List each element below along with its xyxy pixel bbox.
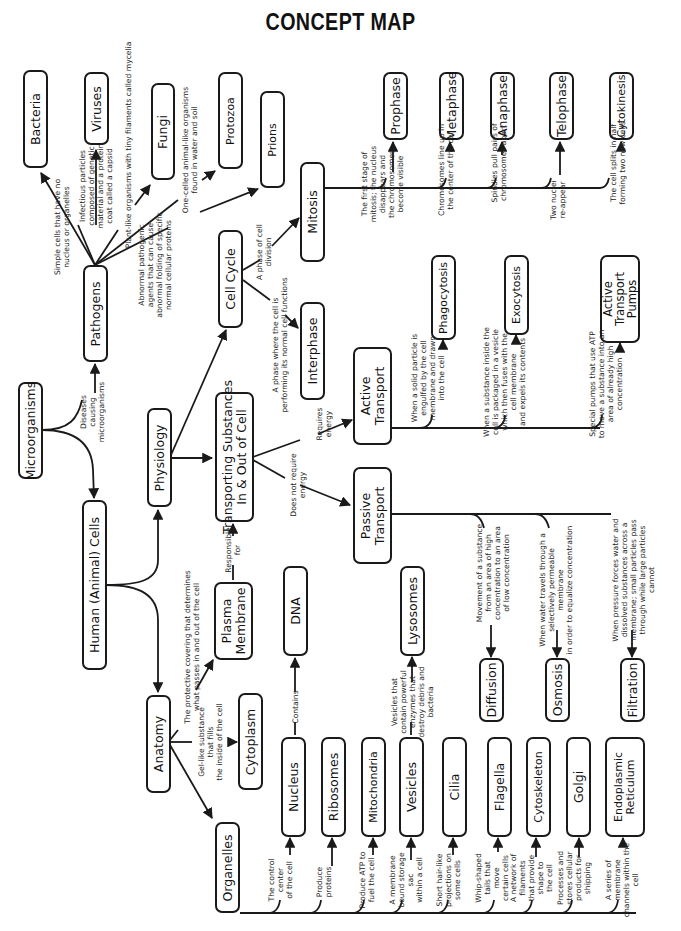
note-golgi: Processes and stores cellular products f… xyxy=(556,851,592,905)
node-label: Anatomy xyxy=(152,716,166,772)
node-label: Interphase xyxy=(306,317,320,384)
node-pathogens[interactable]: Pathogens xyxy=(83,265,108,362)
node-bacteria[interactable]: Bacteria xyxy=(23,70,48,168)
note-diffusion: Movement of a substance from an area of … xyxy=(475,524,511,622)
node-passive-transport[interactable]: Passive Transport xyxy=(353,467,392,564)
note-exocytosis: When a substance inside the cell is pack… xyxy=(482,327,527,437)
note-anaphase: Spindles pull pairs of chromosomes apart xyxy=(490,123,508,202)
node-human-cells[interactable]: Human (Animal) Cells xyxy=(82,500,107,670)
note-interphase: A phase where the cell is performing its… xyxy=(271,277,289,412)
node-label: Physiology xyxy=(153,424,167,491)
node-label: Passive Transport xyxy=(359,486,387,545)
note-plasma-membrane: The protective covering that determines … xyxy=(183,570,201,724)
node-label: Human (Animal) Cells xyxy=(88,517,102,653)
node-label: Telophase xyxy=(555,75,569,137)
note-diseases: Diseases causing microorganisms xyxy=(79,382,106,443)
node-label: Active Transport Pumps xyxy=(602,272,638,326)
note-osmosis: When water travels through a selectively… xyxy=(538,526,574,655)
node-prophase[interactable]: Prophase xyxy=(383,72,408,140)
node-mitochondria[interactable]: Mitochondria xyxy=(361,737,386,837)
node-cilia[interactable]: Cilia xyxy=(442,737,467,837)
node-label: Microorganisms xyxy=(24,381,38,479)
node-organelles[interactable]: Organelles xyxy=(215,822,240,913)
note-prophase: The first stage of mitosis; the nucleus … xyxy=(360,146,405,222)
note-metaphase: Chromosomes line up in the center of the… xyxy=(437,124,455,216)
note-cytoplasm: Gel-like substance that fills the inside… xyxy=(197,703,224,780)
node-ribosomes[interactable]: Ribosomes xyxy=(321,737,346,837)
note-viruses: Infectious particles composed of genetic… xyxy=(78,144,114,229)
note-pumps: Special pumps that use ATP to move a sub… xyxy=(588,330,624,438)
note-cilia: Short hair-like projections on some cell… xyxy=(435,853,462,907)
node-label: Exocytosis xyxy=(510,266,524,324)
node-label: Phagocytosis xyxy=(437,261,451,333)
note-mitochondria: Produce ATP to fuel the cell xyxy=(358,852,376,909)
note-bacteria: Simple cells that have no nucleus or org… xyxy=(53,179,71,275)
node-diffusion[interactable]: Diffusion xyxy=(479,658,504,722)
node-label: DNA xyxy=(289,597,303,625)
node-interphase[interactable]: Interphase xyxy=(300,302,325,400)
node-label: Nucleus xyxy=(287,762,301,812)
node-label: Ribosomes xyxy=(327,753,341,821)
node-vesicles[interactable]: Vesicles xyxy=(399,737,424,837)
note-nucleus: The control center of the cell xyxy=(267,859,294,902)
node-nucleus[interactable]: Nucleus xyxy=(281,737,306,837)
node-label: Transporting Substances In & Out of Cell xyxy=(221,380,249,534)
note-cell-division: A phase of cell division xyxy=(255,224,273,280)
node-label: Cytoplasm xyxy=(244,708,258,774)
node-active-transport[interactable]: Active Transport xyxy=(353,347,392,445)
node-filtration[interactable]: Filtration xyxy=(620,658,645,722)
node-label: Bacteria xyxy=(29,93,43,145)
node-label: Lysosomes xyxy=(406,577,420,645)
node-label: Protozoa xyxy=(224,97,238,145)
node-label: Flagella xyxy=(493,763,507,812)
node-mitosis[interactable]: Mitosis xyxy=(300,162,325,262)
node-flagella[interactable]: Flagella xyxy=(487,737,512,837)
note-lysosomes: Vesicles that contain powerful enzymes t… xyxy=(390,666,435,737)
note-no-energy: Does not require energy xyxy=(289,453,307,516)
note-er: A series of membrane channels within the… xyxy=(604,843,640,917)
node-dna[interactable]: DNA xyxy=(283,566,308,656)
node-anatomy[interactable]: Anatomy xyxy=(146,695,171,793)
note-requires-energy: Requires energy xyxy=(315,408,333,441)
node-transporting[interactable]: Transporting Substances In & Out of Cell xyxy=(215,392,254,522)
note-cytoskeleton: A network of filaments that provide shap… xyxy=(509,854,554,902)
node-physiology[interactable]: Physiology xyxy=(147,408,172,507)
node-cell-cycle[interactable]: Cell Cycle xyxy=(218,230,243,328)
node-protozoa[interactable]: Protozoa xyxy=(218,72,243,169)
node-microorganisms[interactable]: Microorganisms xyxy=(18,382,43,479)
note-flagella: Whip-shaped tails that move certain cell… xyxy=(474,853,510,903)
node-label: Filtration xyxy=(626,663,640,718)
node-label: Diffusion xyxy=(485,662,499,717)
note-cytokinesis: The cell splits in half forming two new … xyxy=(609,121,627,204)
node-label: Pathogens xyxy=(89,281,103,346)
node-label: Endoplasmic Reticulum xyxy=(613,752,637,822)
note-protozoa: One-celled animal-like organisms found i… xyxy=(181,87,199,213)
node-endoplasmic-reticulum[interactable]: Endoplasmic Reticulum xyxy=(605,737,645,837)
note-fungi: Plant-like organisms with tiny filaments… xyxy=(124,42,133,249)
node-label: Cilia xyxy=(448,774,462,801)
node-golgi[interactable]: Golgi xyxy=(566,737,591,837)
node-label: Prophase xyxy=(389,77,403,135)
node-prions[interactable]: Prions xyxy=(260,91,285,188)
note-ribosomes: Produce proteins xyxy=(315,867,333,898)
node-exocytosis[interactable]: Exocytosis xyxy=(504,255,529,335)
note-prions: Abnormal pathogenic agents that can caus… xyxy=(137,212,173,317)
node-label: Golgi xyxy=(572,771,586,803)
node-telophase[interactable]: Telophase xyxy=(549,72,574,140)
node-cytoplasm[interactable]: Cytoplasm xyxy=(238,693,263,790)
node-label: Mitochondria xyxy=(367,751,381,823)
note-phagocytosis: When a solid particle is engulfed by the… xyxy=(410,334,446,422)
node-label: Organelles xyxy=(221,834,235,901)
note-telophase: Two nuclei re-appear xyxy=(549,180,567,219)
node-fungi[interactable]: Fungi xyxy=(151,83,175,180)
node-cytoskeleton[interactable]: Cytoskeleton xyxy=(526,737,551,837)
node-label: Viruses xyxy=(90,86,104,132)
node-viruses[interactable]: Viruses xyxy=(84,72,109,145)
node-plasma-membrane[interactable]: Plasma Membrane xyxy=(214,582,253,660)
node-label: Prions xyxy=(266,123,280,156)
node-label: Osmosis xyxy=(551,664,565,717)
note-vesicles: A membrane bound storage sac within a ce… xyxy=(388,852,424,907)
node-lysosomes[interactable]: Lysosomes xyxy=(400,566,425,656)
node-phagocytosis[interactable]: Phagocytosis xyxy=(431,255,456,340)
node-osmosis[interactable]: Osmosis xyxy=(545,658,570,722)
